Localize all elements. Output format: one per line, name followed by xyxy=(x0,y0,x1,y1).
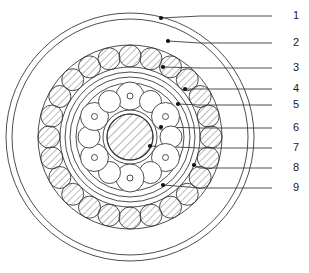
outer-ball xyxy=(98,48,120,70)
leader-dot-2 xyxy=(166,39,170,43)
outer-ball xyxy=(160,196,182,218)
callout-label-8: 8 xyxy=(293,161,299,173)
outer-ball xyxy=(49,167,71,189)
outer-ball xyxy=(140,204,162,226)
leader-dot-9 xyxy=(161,183,165,187)
inner-roller-bore xyxy=(127,93,133,99)
callout-label-4: 4 xyxy=(293,82,299,94)
inner-roller-small xyxy=(99,90,121,112)
leader-dot-8 xyxy=(192,163,196,167)
inner-roller-bore xyxy=(163,155,169,161)
outer-ball xyxy=(38,126,60,148)
center-hub-group xyxy=(107,114,153,160)
callout-label-6: 6 xyxy=(293,121,299,133)
outer-ball xyxy=(41,105,63,127)
outer-ball xyxy=(200,126,222,148)
callout-label-2: 2 xyxy=(293,36,299,48)
inner-roller-bore xyxy=(163,114,169,120)
callout-label-3: 3 xyxy=(293,61,299,73)
outer-ball xyxy=(79,56,101,78)
leader-dot-5 xyxy=(176,102,180,106)
leader-dot-3 xyxy=(161,65,165,69)
leader-dot-7 xyxy=(148,144,152,148)
outer-ball xyxy=(119,45,141,67)
callout-label-group: 123456789 xyxy=(293,9,299,193)
callout-label-5: 5 xyxy=(293,98,299,110)
inner-roller-bore xyxy=(91,114,97,120)
callout-label-7: 7 xyxy=(293,141,299,153)
leader-dot-4 xyxy=(183,87,187,91)
leader-dot-1 xyxy=(159,16,163,20)
center-hub-shaft xyxy=(107,114,153,160)
callout-label-9: 9 xyxy=(293,181,299,193)
outer-ball xyxy=(197,105,219,127)
outer-ball xyxy=(189,86,211,108)
outer-ball xyxy=(140,48,162,70)
outer-ball xyxy=(41,147,63,169)
outer-ball xyxy=(119,207,141,229)
leader-dot-6 xyxy=(159,125,163,129)
callout-label-1: 1 xyxy=(293,9,299,21)
outer-ball xyxy=(197,147,219,169)
outer-ball xyxy=(98,204,120,226)
inner-roller-bore xyxy=(91,155,97,161)
bearing-cross-section-figure: 123456789 xyxy=(0,0,309,273)
inner-roller-bore xyxy=(127,175,133,181)
